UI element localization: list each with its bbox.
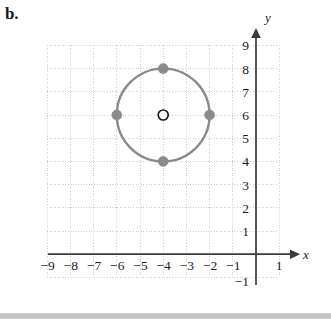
plotted-point [158,156,168,166]
x-tick-label: −5 [133,258,148,273]
y-tick-label: 3 [242,178,249,193]
x-tick-label: −9 [41,258,56,273]
figure-container: b. −9−8−7−6−5−4−3−2−11987654321−1 x y [0,0,331,322]
x-tick-label: −6 [110,258,125,273]
x-tick-label: −1 [226,258,240,273]
center-point-open-circle [158,110,168,120]
x-axis-arrowhead [290,249,300,259]
axes [48,28,300,285]
y-tick-label: −1 [235,274,249,289]
x-tick-label: −7 [87,258,102,273]
y-tick-label: 9 [242,38,249,53]
y-tick-label: 2 [242,201,249,216]
x-tick-label: 1 [276,258,283,273]
y-tick-label: 7 [242,85,249,100]
y-tick-label: 5 [242,131,249,146]
y-tick-label: 6 [242,108,249,123]
x-tick-label: −3 [180,258,195,273]
x-tick-label: −8 [64,258,79,273]
plotted-point [205,110,215,120]
y-tick-label: 1 [242,224,249,239]
data-points [112,64,215,167]
x-axis-label: x [302,247,309,262]
y-axis-label: y [263,10,271,25]
y-tick-label: 4 [242,154,249,169]
bottom-band [0,313,331,319]
y-tick-label: 8 [242,62,249,77]
graph-plot: −9−8−7−6−5−4−3−2−11987654321−1 x y [0,0,331,322]
plotted-point [158,64,168,74]
plotted-point [112,110,122,120]
y-axis-arrowhead [251,28,261,38]
x-tick-label: −2 [203,258,217,273]
x-tick-label: −4 [157,258,172,273]
